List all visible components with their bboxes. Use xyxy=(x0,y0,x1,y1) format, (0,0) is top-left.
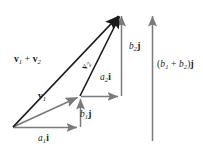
label-v1: v1 xyxy=(38,92,46,102)
label-b2j: b2j xyxy=(129,42,141,52)
label-resultant: v1 + v2 xyxy=(14,55,41,65)
label-a2i: a2i xyxy=(100,73,111,83)
vector-v2-line xyxy=(80,17,120,97)
vector-addition-figure: v1 + v2 v1 v2 a1i b1j a2i b2j (b1 + b2)j xyxy=(0,0,203,158)
label-a1i: a1i xyxy=(38,134,49,144)
label-sum-j: (b1 + b2)j xyxy=(157,60,194,70)
label-b1j: b1j xyxy=(80,110,92,120)
